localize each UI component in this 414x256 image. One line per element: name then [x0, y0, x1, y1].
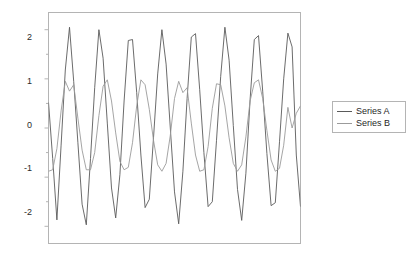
legend-label-series-a: Series A: [356, 106, 390, 117]
plot-frame: [49, 13, 301, 244]
chart-legend: Series A Series B: [332, 101, 406, 133]
ytick-label-1: 1: [10, 76, 32, 86]
ytick-label-0: 0: [10, 120, 32, 130]
ytick-label-neg1: -1: [10, 163, 32, 173]
legend-swatch-series-b: [337, 123, 352, 124]
chart-figure: 2 1 0 -1 -2 Series A Series B: [0, 0, 414, 256]
legend-label-series-b: Series B: [356, 118, 390, 129]
ytick-label-neg2: -2: [10, 207, 32, 217]
axes-layer: [49, 13, 301, 244]
ytick-label-2: 2: [10, 32, 32, 42]
legend-entry-series-b: Series B: [333, 117, 407, 130]
legend-swatch-series-a: [337, 111, 352, 112]
y-axis-ticks: [45, 30, 49, 227]
